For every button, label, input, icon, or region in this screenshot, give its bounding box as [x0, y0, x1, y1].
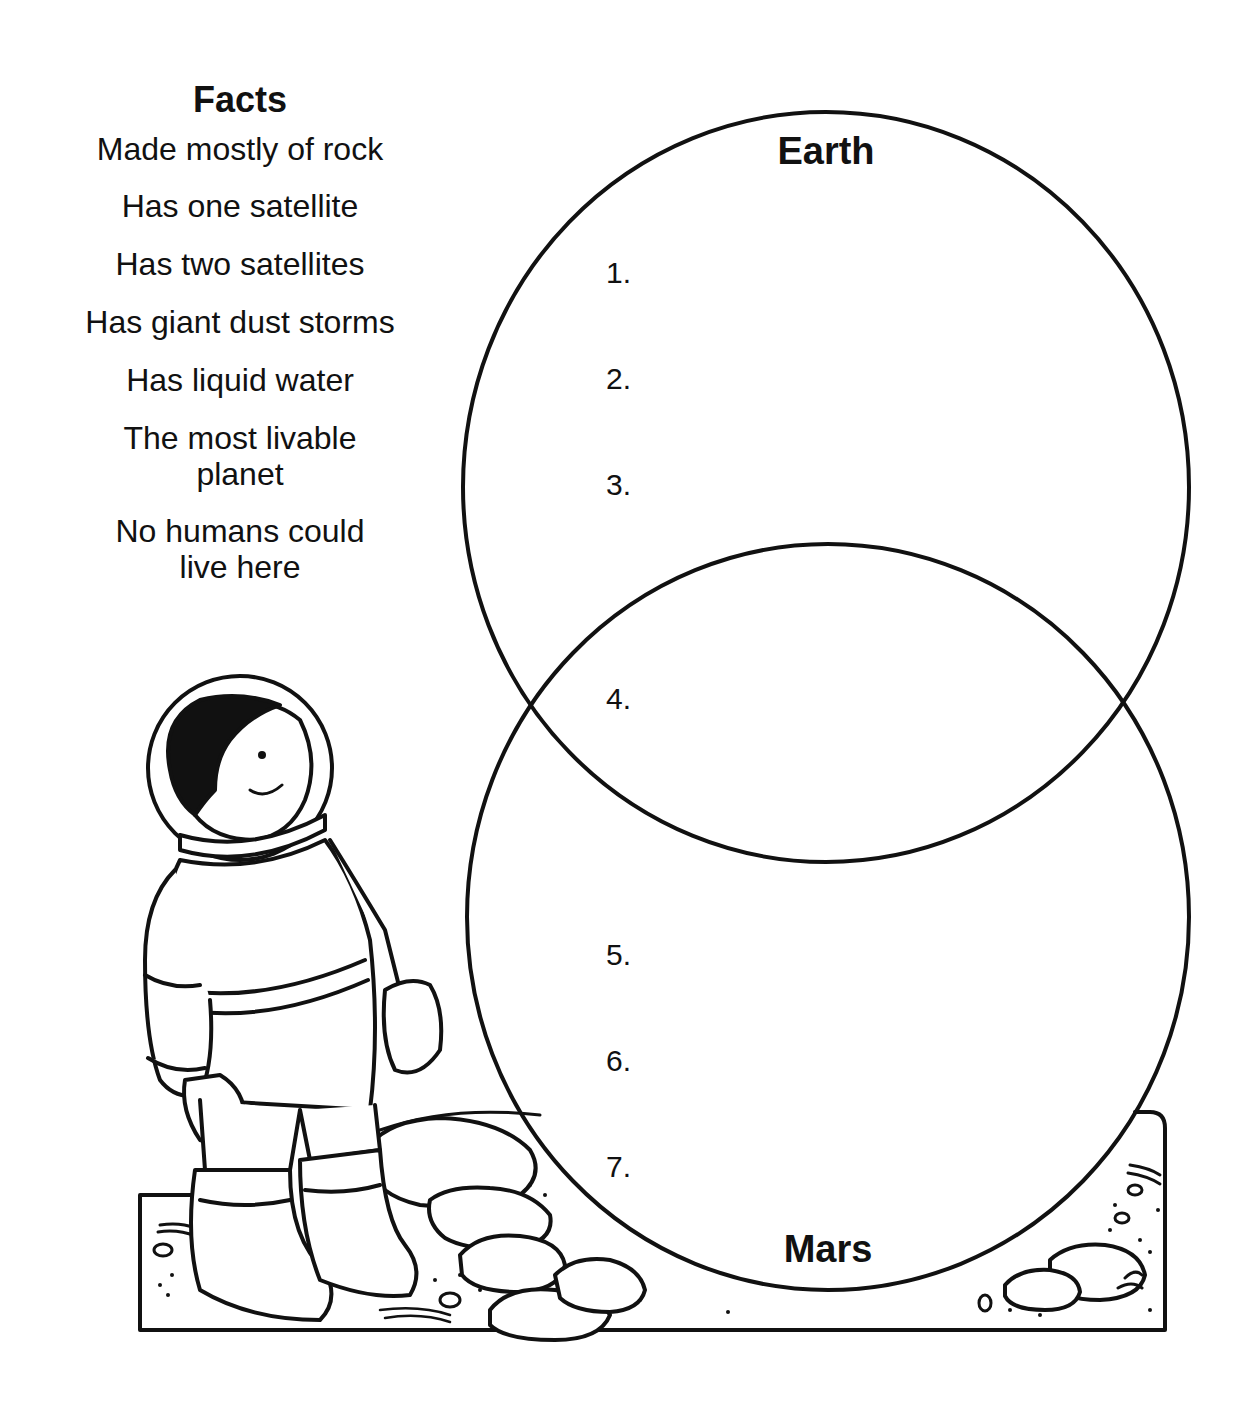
- answer-slot-4[interactable]: 4.: [606, 682, 631, 716]
- answer-slot-5[interactable]: 5.: [606, 938, 631, 972]
- answer-slot-1[interactable]: 1.: [606, 256, 631, 290]
- mars-circle: [467, 544, 1189, 1290]
- earth-label: Earth: [777, 130, 874, 173]
- earth-circle: [463, 112, 1189, 862]
- answer-slot-3[interactable]: 3.: [606, 468, 631, 502]
- answer-slot-6[interactable]: 6.: [606, 1044, 631, 1078]
- astronaut-icon: [145, 676, 441, 1320]
- answer-slot-7[interactable]: 7.: [606, 1150, 631, 1184]
- mars-label: Mars: [784, 1228, 873, 1271]
- answer-slot-2[interactable]: 2.: [606, 362, 631, 396]
